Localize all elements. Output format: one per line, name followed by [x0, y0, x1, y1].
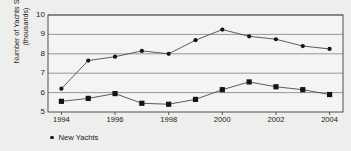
y-tick-label: 7	[41, 69, 45, 77]
data-point-circle	[86, 58, 90, 62]
y-tick-label: 9	[41, 30, 45, 38]
data-point-square	[193, 97, 198, 102]
data-point-circle	[59, 87, 63, 91]
y-tick-label: 5	[41, 108, 45, 116]
data-point-square	[86, 96, 91, 101]
data-point-square	[220, 87, 225, 92]
data-point-square	[59, 99, 64, 104]
data-point-square	[247, 79, 252, 84]
y-tick-label: 8	[41, 50, 45, 58]
data-point-circle	[167, 52, 171, 56]
x-tick-label: 2004	[321, 116, 338, 124]
x-tick-label: 1994	[53, 116, 70, 124]
data-point-square	[139, 101, 144, 106]
data-point-circle	[247, 34, 251, 38]
data-point-square	[273, 84, 278, 89]
chart-legend: New Yachts	[50, 133, 98, 142]
plot-area	[0, 0, 351, 151]
x-tick-label: 1998	[160, 116, 177, 124]
y-tick-label: 10	[36, 11, 45, 19]
y-tick-label: 6	[41, 89, 45, 97]
x-tick-label: 1996	[107, 116, 124, 124]
data-point-square	[166, 102, 171, 107]
data-point-circle	[140, 49, 144, 53]
data-point-square	[300, 87, 305, 92]
data-point-circle	[220, 27, 224, 31]
data-point-circle	[327, 47, 331, 51]
data-point-circle	[193, 38, 197, 42]
y-axis-tick-labels: 10 9 8 7 6 5	[26, 0, 45, 151]
legend-circle-icon	[50, 136, 54, 140]
data-point-circle	[113, 55, 117, 59]
data-point-circle	[301, 44, 305, 48]
data-point-square	[327, 92, 332, 97]
data-point-circle	[274, 37, 278, 41]
x-tick-label: 2002	[268, 116, 285, 124]
yacht-sales-line-chart: Number of Yachts Sold (thousands) 10 9 8…	[0, 0, 351, 151]
x-axis-tick-labels: 199419961998200020022004	[0, 116, 351, 128]
x-tick-label: 2000	[214, 116, 231, 124]
legend-label-new-yachts: New Yachts	[59, 133, 99, 142]
data-point-square	[112, 91, 117, 96]
